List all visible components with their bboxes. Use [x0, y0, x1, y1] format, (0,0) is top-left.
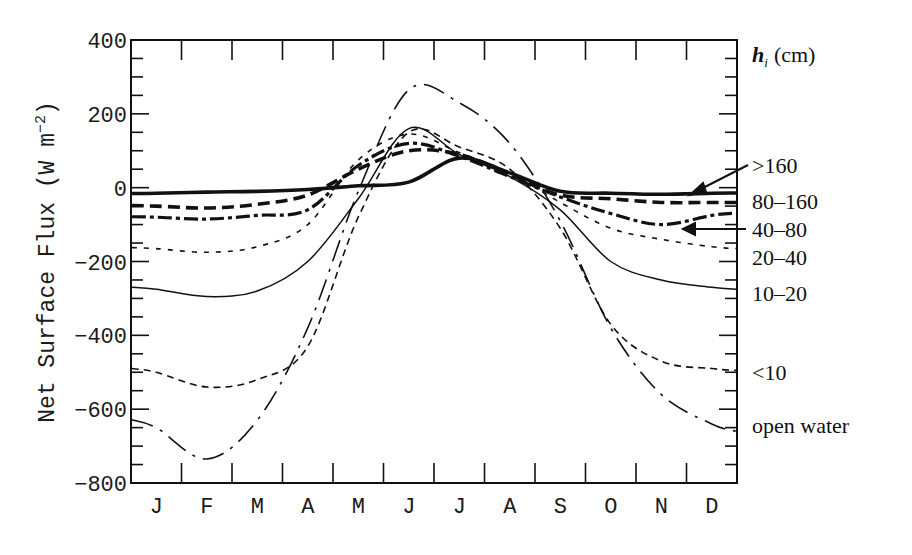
legend-title: hi(cm) — [752, 42, 815, 70]
x-tick-label: A — [503, 495, 517, 520]
legend-label: 10–20 — [752, 281, 807, 306]
x-tick-label: D — [705, 495, 718, 520]
series-line — [132, 158, 736, 194]
series-line — [132, 143, 736, 224]
y-tick-label: −800 — [74, 473, 127, 498]
legend-label: 80–160 — [752, 189, 818, 214]
y-tick-label: 200 — [87, 104, 127, 129]
y-tick-label: −200 — [74, 252, 127, 277]
legend-label: >160 — [752, 153, 797, 178]
arrow-40-80-head — [683, 223, 695, 235]
annotation-arrows — [683, 165, 748, 235]
y-axis-title: Net Surface Flux (W m−2) — [33, 101, 61, 423]
series-line — [132, 127, 736, 296]
x-tick-label: J — [453, 495, 466, 520]
legend-label: <10 — [752, 360, 786, 385]
x-tick-label: S — [554, 495, 567, 520]
y-tick-label: 0 — [114, 178, 127, 203]
x-tick-label: M — [352, 495, 365, 520]
y-axis-ticks: 4002000−200−400−600−800 — [74, 30, 737, 498]
x-tick-label: O — [604, 495, 617, 520]
x-tick-label: J — [150, 495, 163, 520]
y-tick-label: 400 — [87, 30, 127, 55]
x-tick-label: J — [402, 495, 415, 520]
legend-label: 40–80 — [752, 217, 807, 242]
series-line — [132, 150, 736, 208]
legend-label: 20–40 — [752, 245, 807, 270]
x-tick-label: F — [200, 495, 213, 520]
x-tick-label: N — [655, 495, 668, 520]
series-curves — [132, 84, 736, 459]
y-tick-label: −400 — [74, 325, 127, 350]
legend-label: open water — [752, 413, 850, 438]
x-tick-label: A — [301, 495, 315, 520]
x-tick-label: M — [251, 495, 264, 520]
y-tick-label: −600 — [74, 399, 127, 424]
arrow-160-head — [690, 183, 706, 195]
series-line — [132, 84, 736, 459]
legend: >16080–16040–8020–4010–20<10open water — [752, 153, 850, 438]
plot-frame — [131, 40, 737, 483]
net-surface-flux-chart: 4002000−200−400−600−800 JFMAMJJASOND Net… — [0, 0, 912, 555]
x-axis-ticks: JFMAMJJASOND — [150, 40, 719, 520]
